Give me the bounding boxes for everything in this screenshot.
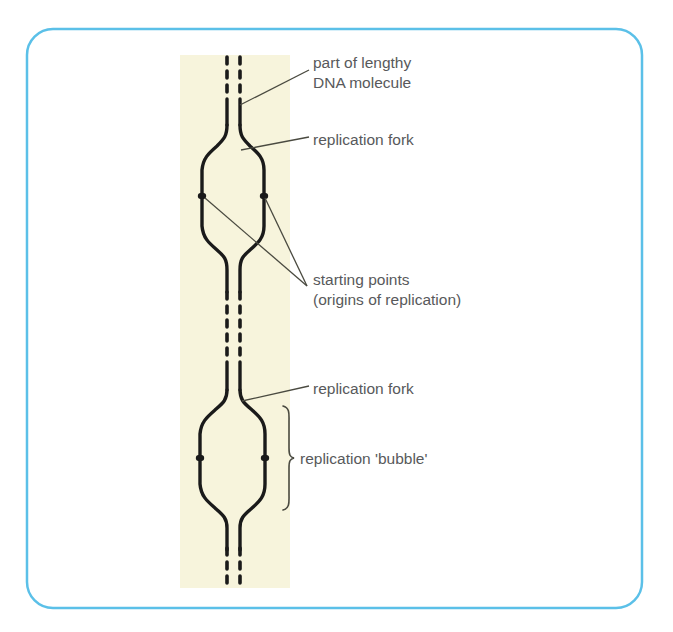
label-line: starting points: [313, 270, 461, 290]
label-line: (origins of replication): [313, 290, 461, 310]
label-line: replication 'bubble': [300, 449, 427, 469]
label-line: replication fork: [313, 130, 414, 150]
page-background: [0, 0, 673, 632]
label-starting-points: starting points (origins of replication): [313, 270, 461, 310]
origin-dot-lower-left: [196, 455, 204, 461]
label-replication-bubble: replication 'bubble': [300, 449, 427, 469]
origin-dot-upper-right: [260, 193, 268, 199]
label-part-of-lengthy-dna-molecule: part of lengthy DNA molecule: [313, 53, 411, 93]
label-replication-fork-upper: replication fork: [313, 130, 414, 150]
label-replication-fork-lower: replication fork: [313, 379, 414, 399]
label-line: DNA molecule: [313, 73, 411, 93]
origin-dot-lower-right: [261, 455, 269, 461]
label-line: part of lengthy: [313, 53, 411, 73]
label-line: replication fork: [313, 379, 414, 399]
diagram-canvas: [0, 0, 673, 632]
dna-replication-figure: part of lengthy DNA molecule replication…: [0, 0, 673, 632]
dna-highlight-band: [180, 55, 290, 588]
